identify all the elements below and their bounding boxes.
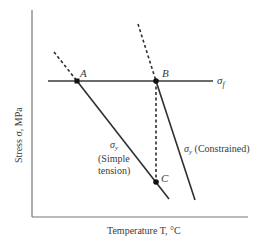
simple-tension-label-line2: tension) [98,165,130,177]
sigma-y-subscript: y [114,144,119,152]
fracture-stress-label: σf [217,74,226,89]
point-a-label: A [79,67,87,79]
constrained-dashed-extension [138,24,156,81]
x-axis-label: Temperature T, °C [107,225,181,236]
simple-tension-dashed-extension [54,52,77,81]
y-axis-label: Stress σ, MPa [13,107,24,163]
constrained-text: (Constrained) [192,143,250,155]
stress-temperature-diagram: A B C σf σy (Simple tension) σy (Constra… [0,0,266,241]
simple-tension-sigma-label: σy [110,139,119,152]
point-c-label: C [161,172,169,184]
point-a-marker [75,79,80,84]
point-c-marker [153,179,159,185]
point-b-marker [153,78,159,84]
constrained-label: σy (Constrained) [184,143,250,156]
point-b-label: B [162,67,169,79]
simple-tension-label-line1: (Simple [98,153,130,165]
sigma-f-subscript: f [222,80,226,89]
